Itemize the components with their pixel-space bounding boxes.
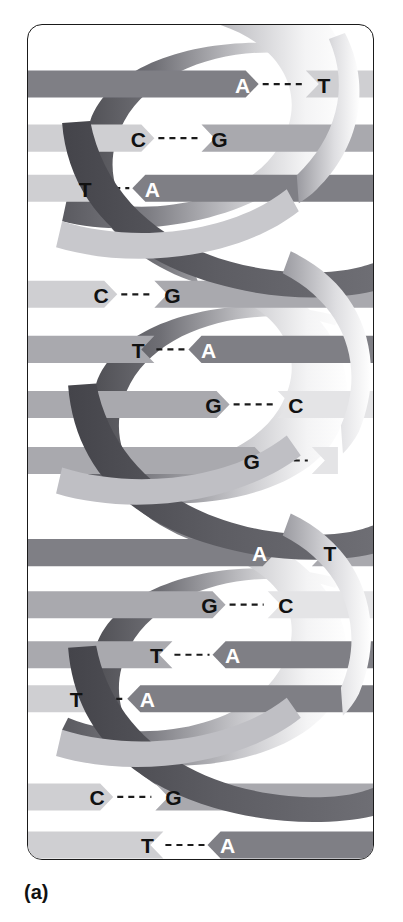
base-letter-right: A (140, 688, 155, 711)
base-letter-right: T (323, 542, 336, 565)
base-letter-left: A (235, 74, 250, 97)
figure-frame: ATCGTACGTAGCGATGCTATACGTA (27, 24, 374, 860)
base-right (132, 175, 373, 202)
base-letter-left: T (70, 688, 83, 711)
base-letter-right: A (225, 644, 240, 667)
base-letter-left: G (243, 450, 259, 473)
base-letter-left: C (90, 786, 105, 809)
base-left (28, 391, 230, 418)
base-left (28, 71, 259, 98)
dna-double-helix-figure: ATCGTACGTAGCGATGCTATACGTA (a) (0, 0, 403, 922)
base-letter-right: G (165, 786, 181, 809)
base-letter-right: A (220, 834, 235, 857)
base-letter-left: T (141, 834, 154, 857)
figure-caption: (a) (24, 882, 48, 902)
base-letter-left: A (252, 542, 267, 565)
base-letter-left: T (150, 644, 163, 667)
base-letter-left: G (201, 594, 217, 617)
base-letter-left: C (94, 284, 109, 307)
base-letter-left: G (205, 394, 221, 417)
base-letter-right: A (145, 178, 160, 201)
base-letter-left: C (131, 128, 146, 151)
base-letter-right: C (278, 594, 293, 617)
helix-illustration: ATCGTACGTAGCGATGCTATACGTA (28, 25, 373, 859)
base-left (28, 591, 226, 618)
base-pair-rung (28, 831, 373, 858)
base-letter-right: G (211, 128, 227, 151)
base-letter-left: T (79, 178, 92, 201)
base-letter-right: A (201, 339, 216, 362)
base-letter-right: G (164, 284, 180, 307)
base-letter-right: C (288, 394, 303, 417)
base-right (127, 685, 373, 712)
base-letter-right: T (317, 74, 330, 97)
base-letter-left: T (132, 339, 145, 362)
